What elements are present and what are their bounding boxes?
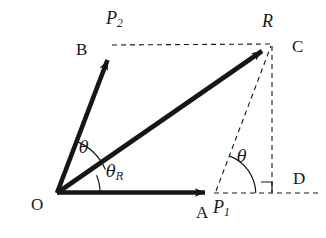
label-force-p2: P2: [106, 9, 123, 29]
vector-resultant-arrow: [57, 51, 262, 193]
label-point-d: D: [293, 170, 305, 187]
dashed-line-b-to-r: [112, 44, 272, 45]
label-angle-theta-at-a: θ: [237, 149, 247, 165]
label-point-r: R: [262, 12, 273, 30]
label-force-p2-base: P: [106, 8, 117, 28]
label-force-p2-subscript: 2: [117, 17, 123, 29]
label-point-c: C: [292, 38, 303, 55]
label-angle-theta-r: θR: [106, 164, 123, 181]
label-force-p1: P1: [213, 198, 230, 218]
label-angle-theta-r-base: θ: [106, 162, 116, 181]
dashed-line-a-to-r: [216, 46, 271, 191]
label-angle-theta-r-subscript: R: [116, 170, 124, 182]
vector-diagram-figure: O B P2 R C D A P1 θ θR θ: [0, 0, 326, 238]
label-point-a: A: [196, 204, 208, 221]
label-point-b: B: [76, 41, 87, 58]
right-angle-marker-at-d: [261, 182, 272, 193]
label-angle-theta-origin: θ: [79, 140, 89, 156]
label-point-o: O: [31, 196, 43, 213]
label-force-p1-subscript: 1: [224, 206, 230, 218]
label-force-p1-base: P: [213, 197, 224, 217]
diagram-canvas: [0, 0, 326, 238]
angle-arc-group: [75, 141, 256, 193]
